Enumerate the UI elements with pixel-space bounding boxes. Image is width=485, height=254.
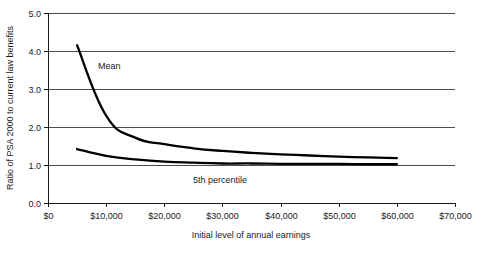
series-label-5th-percentile: 5th percentile <box>193 175 247 185</box>
x-tick-label: $20,000 <box>148 211 181 221</box>
line-chart: 0.01.02.03.04.05.0 $0$10,000$20,000$30,0… <box>0 0 485 254</box>
x-tick-label: $50,000 <box>323 211 356 221</box>
x-tick-label: $10,000 <box>90 211 123 221</box>
y-axis-title: Ratio of PSA 2000 to current law benefit… <box>5 25 15 190</box>
y-tick-label: 0.0 <box>28 199 41 209</box>
series-label-mean: Mean <box>98 61 121 71</box>
y-tick-label: 1.0 <box>28 161 41 171</box>
x-tick-label: $0 <box>43 211 53 221</box>
chart-figure: 0.01.02.03.04.05.0 $0$10,000$20,000$30,0… <box>0 0 485 254</box>
x-axis-title: Initial level of annual earnings <box>192 230 311 240</box>
y-tick-label: 3.0 <box>28 85 41 95</box>
y-tick-label: 4.0 <box>28 47 41 57</box>
x-tick-label: $40,000 <box>265 211 298 221</box>
y-tick-label: 2.0 <box>28 123 41 133</box>
x-tick-label: $30,000 <box>206 211 239 221</box>
y-tick-label: 5.0 <box>28 9 41 19</box>
x-tick-label: $70,000 <box>439 211 472 221</box>
x-tick-label: $60,000 <box>381 211 414 221</box>
